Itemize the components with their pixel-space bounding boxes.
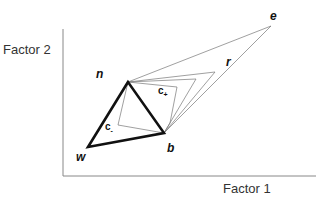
y-axis-label: Factor 2: [3, 42, 51, 57]
centroid-label-c-plus: c+: [158, 85, 168, 98]
point-label-b: b: [167, 141, 174, 155]
line-b-r: [164, 72, 215, 133]
x-axis-label: Factor 1: [223, 181, 271, 196]
c-plus-shape: [128, 82, 177, 133]
centroid-label-c-minus: c-: [105, 121, 113, 134]
point-label-w: w: [76, 150, 85, 164]
point-label-r: r: [226, 55, 231, 69]
diagram-canvas: [0, 0, 332, 197]
point-label-e: e: [270, 9, 277, 23]
point-label-n: n: [96, 67, 103, 81]
